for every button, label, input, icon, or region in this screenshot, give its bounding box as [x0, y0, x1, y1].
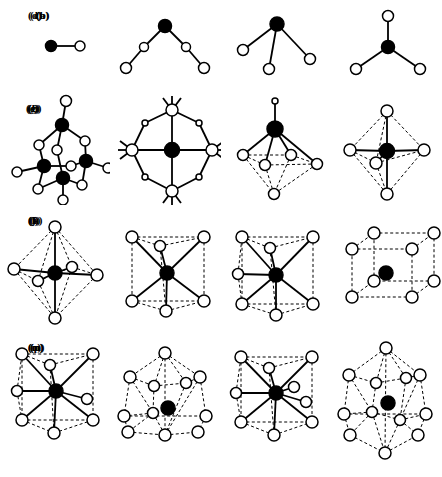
panel-drawing-d: [332, 0, 442, 97]
ligand-atom: [87, 348, 99, 360]
panel-e: (e): [0, 93, 110, 205]
panel-k: (k): [221, 205, 332, 329]
ligand-atom: [306, 416, 318, 428]
panel-drawing-i: [0, 205, 110, 329]
panel-drawing-b: [110, 0, 221, 97]
ligand-atom: [182, 43, 191, 52]
central-atom: [270, 17, 284, 31]
panel-m: (m): [0, 330, 110, 477]
ligand-atom: [61, 96, 72, 107]
ligand-atom: [52, 145, 62, 155]
dashed-bond: [350, 111, 387, 150]
ligand-atom: [45, 360, 56, 371]
ligand-atom: [368, 275, 380, 287]
central-atom: [48, 266, 62, 280]
ligand-atom: [272, 98, 278, 104]
ligand-atom: [198, 295, 210, 307]
panel-drawing-g: [221, 93, 332, 205]
ligand-atom: [238, 45, 249, 56]
ligand-atom: [236, 298, 248, 310]
panel-o: (o): [221, 330, 332, 477]
ligand-atom: [160, 305, 172, 317]
ligand-atom: [414, 369, 426, 381]
ligand-atom: [238, 150, 249, 161]
central-atom: [159, 20, 172, 33]
central-atom: [161, 401, 175, 415]
ligand-atom: [420, 408, 432, 420]
panel-drawing-l: [332, 205, 442, 329]
ligand-atom: [159, 429, 171, 441]
central-atom: [269, 386, 283, 400]
central-atom: [165, 143, 180, 158]
central-atom: [269, 268, 283, 282]
ligand-atom: [48, 427, 60, 439]
ligand-atom: [236, 231, 248, 243]
ligand-atom: [124, 371, 136, 383]
ligand-atom: [77, 180, 87, 190]
ligand-atom: [200, 410, 212, 422]
panel-label-h: (h): [28, 103, 41, 114]
ligand-atom: [269, 189, 280, 200]
panel-drawing-o: [221, 330, 332, 477]
ligand-atom: [379, 447, 391, 459]
ligand-atom: [260, 160, 271, 171]
central-atom: [379, 266, 393, 280]
ligand-atom: [264, 363, 275, 374]
metal-atom: [38, 160, 51, 173]
panel-label-p: (p): [30, 342, 43, 353]
ligand-atom: [306, 351, 318, 363]
panel-p: (p): [332, 330, 442, 477]
bridge-atom: [142, 174, 148, 180]
ligand-atom: [289, 382, 300, 393]
ligand-atom: [80, 136, 90, 146]
ligand-atom: [34, 140, 44, 150]
ligand-atom: [351, 64, 362, 75]
ligand-atom: [344, 429, 356, 441]
ligand-atom: [126, 231, 138, 243]
panel-c: (c): [221, 0, 332, 97]
panel-f: (f): [110, 93, 221, 205]
central-atom: [46, 41, 57, 52]
central-atom: [49, 384, 63, 398]
ligand-atom: [126, 144, 138, 156]
panel-drawing-p: [332, 330, 442, 477]
ligand-atom: [233, 269, 244, 280]
bridge-atom: [142, 120, 148, 126]
ligand-atom: [380, 342, 392, 354]
panel-drawing-n: [110, 330, 221, 477]
central-atom: [382, 41, 395, 54]
ligand-atom: [33, 184, 43, 194]
panel-drawing-e: [0, 93, 110, 205]
panel-a: (a): [0, 0, 110, 97]
ligand-atom: [428, 275, 440, 287]
ligand-atom: [406, 291, 418, 303]
ligand-atom: [381, 105, 393, 117]
ligand-atom: [198, 231, 210, 243]
ligand-atom: [346, 291, 358, 303]
panel-l: (l): [332, 205, 442, 329]
ligand-atom: [206, 144, 218, 156]
ligand-atom: [301, 397, 312, 408]
ligand-atom: [82, 394, 93, 405]
ligand-atom: [49, 312, 61, 324]
panel-label-l: (l): [28, 215, 38, 226]
ligand-atom: [265, 243, 276, 254]
ligand-atom: [166, 104, 178, 116]
dashed-bond: [349, 348, 386, 375]
ligand-atom: [149, 381, 160, 392]
bridge-atom: [196, 174, 202, 180]
ligand-atom: [383, 11, 394, 22]
ligand-atom: [338, 408, 350, 420]
ligand-atom: [268, 429, 280, 441]
bridge-atom: [196, 120, 202, 126]
ligand-atom: [49, 221, 61, 233]
central-atom: [380, 144, 395, 159]
ligand-atom: [368, 227, 380, 239]
ligand-atom: [87, 414, 99, 426]
central-atom: [267, 121, 283, 137]
ligand-atom: [412, 429, 424, 441]
ligand-atom: [140, 43, 149, 52]
ligand-atom: [166, 185, 178, 197]
ligand-atom: [121, 63, 132, 74]
ligand-atom: [307, 231, 319, 243]
